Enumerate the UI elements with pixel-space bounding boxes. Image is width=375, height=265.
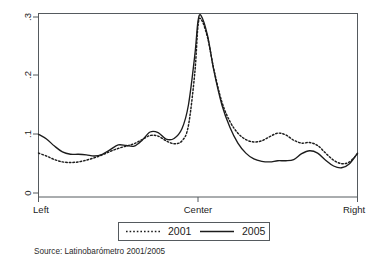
y-tick-label-1: .1: [22, 130, 33, 138]
series-line-2005: [39, 15, 358, 168]
x-tick-label-left: Left: [33, 204, 49, 215]
legend-label-2001: 2001: [168, 225, 192, 237]
y-axis: .3 .2 .1 0: [22, 13, 39, 196]
figure-container: .3 .2 .1 0 Left Center Right 2001: [0, 0, 375, 265]
y-tick-label-0: 0: [22, 190, 33, 195]
series-line-2001: [39, 18, 358, 164]
source-caption: Source: Latinobarómetro 2001/2005: [34, 247, 166, 256]
x-tick-label-right: Right: [343, 204, 366, 215]
y-tick-label-2: .2: [22, 71, 33, 79]
line-chart: .3 .2 .1 0 Left Center Right 2001: [0, 0, 375, 265]
x-tick-label-center: Center: [184, 204, 213, 215]
y-tick-label-3: .3: [22, 13, 33, 21]
plot-frame: [39, 14, 358, 198]
legend-label-2005: 2005: [242, 225, 266, 237]
chart-legend: 2001 2005: [119, 223, 270, 241]
x-axis: Left Center Right: [33, 197, 365, 215]
